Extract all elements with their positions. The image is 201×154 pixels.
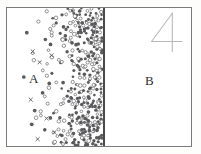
particle [76,19,79,22]
particle [92,67,96,71]
particle [96,15,99,18]
particle [53,140,57,144]
particle-cross-marker [29,98,33,102]
particle [80,110,83,113]
particle [71,119,74,122]
particle [87,134,90,137]
particle [50,72,53,75]
particle [81,49,84,52]
particle [22,75,26,79]
particle [72,99,76,103]
particle [78,96,81,99]
particle [70,87,73,90]
particle [80,21,84,25]
particle [37,20,40,23]
particle [89,41,93,45]
particle [55,21,58,24]
particle [84,141,87,144]
particle [93,46,96,49]
particle [94,23,97,26]
particle [87,96,91,100]
particle [66,133,69,136]
particle [52,24,55,27]
particle [84,13,87,16]
particle [71,54,74,57]
particle [98,47,101,50]
particle [67,26,70,29]
particle [70,124,73,127]
particle [88,58,92,61]
particle [77,144,80,146]
particle [73,14,77,18]
particle [86,9,89,12]
particle [66,94,69,97]
particle [76,103,79,106]
particle [93,121,96,124]
particle [90,19,93,22]
particle [92,30,96,34]
particle [74,43,78,47]
particle [61,143,64,146]
particle [88,128,91,131]
particle [63,98,66,101]
particle [92,100,95,103]
particle [73,88,76,91]
particle [71,103,74,106]
particle [72,62,75,65]
particle [33,109,37,113]
particle [70,59,73,62]
particle [67,99,70,102]
particle [94,41,97,44]
particle [88,87,91,90]
particle [58,116,61,119]
particle [78,25,81,28]
particle [88,105,91,108]
particle [49,43,53,47]
particle [54,16,58,20]
particle [77,21,80,24]
particle [93,25,96,28]
particle [49,27,52,30]
particle [62,129,65,132]
particle [86,69,89,72]
particle [46,63,49,66]
particle [91,54,94,57]
particle [98,65,101,68]
particle [83,99,86,102]
particle [96,45,99,48]
particle [72,69,75,72]
particle [89,14,92,17]
particle [71,80,74,83]
particle [55,81,58,84]
particle [92,83,95,86]
particle [82,138,85,141]
particle [83,41,86,44]
particle [77,48,80,51]
particle [71,9,74,12]
particle [61,81,65,85]
particle [96,113,99,116]
particle [59,103,62,106]
particle [86,123,90,126]
particle [89,91,92,94]
particle [95,124,98,127]
particle [46,102,49,105]
particle [80,103,83,106]
particle [93,57,96,60]
particle [98,38,101,41]
particle [50,34,53,37]
particle [69,36,72,39]
particle [70,30,73,33]
particle-cross-marker [45,116,49,120]
particle [62,44,66,48]
particle [91,34,94,37]
particle [77,141,80,144]
particle [65,50,68,53]
particle [84,51,87,54]
particle [66,8,69,10]
particle [72,32,76,36]
particle [83,73,87,77]
region-label-a: A [29,72,38,85]
particle [60,13,63,16]
particle [70,127,73,130]
